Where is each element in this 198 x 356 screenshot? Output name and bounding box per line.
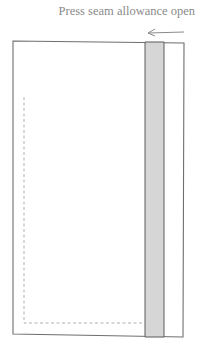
seam-allowance-strip <box>145 42 164 337</box>
arrow-left-icon <box>148 29 184 36</box>
sewing-diagram <box>0 0 198 356</box>
